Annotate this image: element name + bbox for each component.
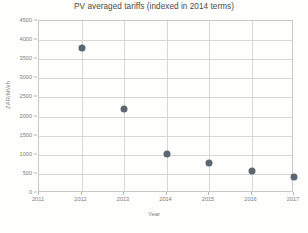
x-axis-tick-mark <box>293 192 294 195</box>
x-axis-label: Year <box>0 211 308 217</box>
x-axis-tick-label: 2017 <box>278 196 308 202</box>
data-point-marker <box>291 173 298 180</box>
plot-area <box>38 20 293 192</box>
plot-inner <box>39 21 292 191</box>
y-axis-label: ZAR/MWh <box>5 65 11 125</box>
x-axis-tick-label: 2011 <box>23 196 53 202</box>
y-axis-tick-label: 4000 <box>2 36 32 42</box>
y-axis-tick-label: 500 <box>2 170 32 176</box>
y-axis-tick-mark <box>34 153 37 154</box>
data-point-marker <box>206 160 213 167</box>
y-axis-tick-mark <box>34 77 37 78</box>
x-axis-tick-mark <box>81 192 82 195</box>
x-axis-tick-mark <box>123 192 124 195</box>
gridline-horizontal <box>39 40 292 41</box>
chart-container: PV averaged tariffs (indexed in 2014 ter… <box>0 0 308 233</box>
gridline-horizontal <box>39 78 292 79</box>
y-axis-tick-mark <box>34 39 37 40</box>
x-axis-tick-mark <box>208 192 209 195</box>
y-axis-tick-mark <box>34 58 37 59</box>
x-axis-tick-label: 2016 <box>236 196 266 202</box>
data-point-marker <box>121 105 128 112</box>
y-axis-tick-mark <box>34 115 37 116</box>
y-axis-tick-label: 4500 <box>2 17 32 23</box>
y-axis-tick-mark <box>34 20 37 21</box>
y-axis-tick-mark <box>34 96 37 97</box>
gridline-horizontal <box>39 136 292 137</box>
x-axis-tick-label: 2013 <box>108 196 138 202</box>
gridline-horizontal <box>39 174 292 175</box>
y-axis-tick-label: 1000 <box>2 151 32 157</box>
gridline-horizontal <box>39 59 292 60</box>
gridline-horizontal <box>39 117 292 118</box>
data-point-marker <box>78 44 85 51</box>
data-point-marker <box>163 150 170 157</box>
y-axis-tick-label: 3500 <box>2 55 32 61</box>
gridline-horizontal <box>39 97 292 98</box>
y-axis-tick-label: 0 <box>2 189 32 195</box>
chart-title: PV averaged tariffs (indexed in 2014 ter… <box>0 2 308 11</box>
gridline-vertical <box>167 21 168 191</box>
gridline-vertical <box>252 21 253 191</box>
y-axis-tick-mark <box>34 134 37 135</box>
data-point-marker <box>248 168 255 175</box>
x-axis-tick-label: 2012 <box>66 196 96 202</box>
y-axis-tick-mark <box>34 192 37 193</box>
y-axis-tick-label: 1500 <box>2 132 32 138</box>
x-axis-tick-label: 2015 <box>193 196 223 202</box>
x-axis-tick-mark <box>251 192 252 195</box>
x-axis-tick-mark <box>166 192 167 195</box>
x-axis-tick-mark <box>38 192 39 195</box>
y-axis-tick-mark <box>34 172 37 173</box>
x-axis-tick-label: 2014 <box>151 196 181 202</box>
